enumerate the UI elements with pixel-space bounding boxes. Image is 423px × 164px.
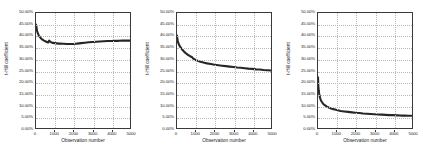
gridline-horizontal [177,48,271,49]
y-tick-label: 5.00% [303,115,315,119]
gridline-horizontal [177,36,271,37]
y-tick-label: 40.00% [160,33,174,37]
plot-area-1 [35,12,131,129]
x-tick-label: 5000 [267,132,276,136]
y-tick-label: 35.00% [160,45,174,49]
gridline-horizontal [177,72,271,73]
x-tick-label: 2000 [210,132,219,136]
gridline-horizontal [318,107,412,108]
y-axis-title-3: t-Hill coefficient [286,29,291,89]
x-tick-label: 4000 [248,132,257,136]
x-tick-label: 0 [34,132,36,136]
gridline-vertical [254,13,255,128]
gridline-horizontal [177,95,271,96]
y-tick-label: 50.00% [19,10,33,14]
gridline-horizontal [36,48,130,49]
gridline-horizontal [318,118,412,119]
data-curve-2 [177,36,271,71]
y-tick-label: 15.00% [301,92,315,96]
y-tick-label: 40.00% [19,33,33,37]
gridline-horizontal [36,25,130,26]
y-tick-label: 45.00% [301,22,315,26]
y-tick-label: 15.00% [160,92,174,96]
y-tick-label: 30.00% [19,57,33,61]
y-tick-label: 20.00% [160,80,174,84]
y-tick-label: 30.00% [160,57,174,61]
x-tick-label: 4000 [107,132,116,136]
gridline-horizontal [177,118,271,119]
gridline-horizontal [318,95,412,96]
gridline-vertical [113,13,114,128]
gridline-vertical [215,13,216,128]
gridline-vertical [395,13,396,128]
x-tick-label: 3000 [229,132,238,136]
x-tick-label: 1000 [50,132,59,136]
gridline-horizontal [177,83,271,84]
y-tick-label: 20.00% [301,80,315,84]
gridline-vertical [94,13,95,128]
y-axis-title-1: t-Hill coefficient [4,29,9,89]
gridline-vertical [55,13,56,128]
x-tick-label: 2000 [351,132,360,136]
chart-panel-3: 0.00%5.00%10.00%15.00%20.00%25.00%30.00%… [282,0,423,164]
y-tick-label: 20.00% [19,80,33,84]
x-tick-label: 5000 [408,132,417,136]
curve-svg-3 [318,13,412,128]
gridline-horizontal [318,83,412,84]
x-tick-label: 1000 [332,132,341,136]
y-tick-label: 50.00% [301,10,315,14]
gridline-horizontal [318,48,412,49]
y-tick-label: 10.00% [19,103,33,107]
gridline-horizontal [36,36,130,37]
y-tick-label: 10.00% [160,103,174,107]
curve-svg-1 [36,13,130,128]
gridline-vertical [74,13,75,128]
gridline-horizontal [318,60,412,61]
gridline-vertical [337,13,338,128]
gridline-vertical [356,13,357,128]
x-tick-label: 5000 [126,132,135,136]
x-axis-title-1: Observation number [35,138,131,143]
y-tick-label: 0.00% [21,127,33,131]
gridline-horizontal [177,25,271,26]
y-tick-label: 25.00% [160,68,174,72]
x-axis-title-2: Observation number [176,138,272,143]
chart-panel-2: 0.00%5.00%10.00%15.00%20.00%25.00%30.00%… [141,0,282,164]
x-tick-label: 3000 [370,132,379,136]
data-curve-1 [36,25,130,45]
gridline-vertical [235,13,236,128]
x-tick-label: 0 [175,132,177,136]
y-tick-label: 50.00% [160,10,174,14]
gridline-horizontal [318,72,412,73]
y-tick-label: 40.00% [301,33,315,37]
y-tick-label: 5.00% [21,115,33,119]
y-tick-label: 25.00% [19,68,33,72]
gridline-horizontal [318,36,412,37]
y-tick-label: 30.00% [301,57,315,61]
x-tick-label: 0 [316,132,318,136]
plot-area-3 [317,12,413,129]
gridline-horizontal [177,107,271,108]
gridline-horizontal [318,25,412,26]
gridline-horizontal [36,60,130,61]
gridline-horizontal [36,83,130,84]
y-tick-label: 15.00% [19,92,33,96]
figure-three-panel-line-charts: 0.00%5.00%10.00%15.00%20.00%25.00%30.00%… [0,0,423,164]
y-tick-label: 45.00% [19,22,33,26]
y-tick-label: 0.00% [162,127,174,131]
y-tick-label: 0.00% [303,127,315,131]
x-tick-label: 4000 [389,132,398,136]
x-tick-label: 2000 [69,132,78,136]
gridline-horizontal [36,95,130,96]
y-tick-label: 10.00% [301,103,315,107]
gridline-horizontal [36,118,130,119]
y-tick-label: 5.00% [162,115,174,119]
x-axis-title-3: Observation number [317,138,413,143]
gridline-horizontal [36,72,130,73]
gridline-horizontal [36,107,130,108]
chart-panel-1: 0.00%5.00%10.00%15.00%20.00%25.00%30.00%… [0,0,141,164]
gridline-vertical [196,13,197,128]
gridline-horizontal [177,60,271,61]
x-tick-label: 1000 [191,132,200,136]
gridline-vertical [376,13,377,128]
